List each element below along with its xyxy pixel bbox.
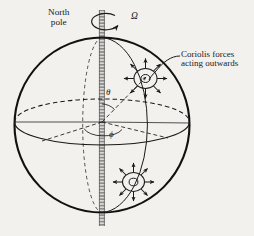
meridian-front bbox=[102, 38, 147, 213]
phi-angle-label: ϕ bbox=[109, 130, 114, 139]
reference-radius-line bbox=[42, 122, 102, 141]
coriolis-star-lower bbox=[113, 163, 154, 201]
north-pole-line1: North bbox=[48, 7, 69, 17]
front-equatorial-radius bbox=[102, 122, 189, 123]
coriolis-sphere-figure bbox=[0, 0, 254, 236]
north-pole-label: Northpole bbox=[48, 8, 69, 27]
coriolis-line2: acting outwards bbox=[181, 58, 238, 68]
north-pole-line2: pole bbox=[51, 17, 67, 27]
omega-label: Ω bbox=[131, 12, 138, 22]
coriolis-star-upper bbox=[124, 59, 167, 99]
rotation-axis bbox=[99, 10, 104, 226]
omega-rotation-arrow bbox=[92, 13, 118, 29]
theta-angle-label: θ bbox=[106, 88, 110, 97]
coriolis-forces-label: Coriolis forcesacting outwards bbox=[181, 50, 238, 69]
